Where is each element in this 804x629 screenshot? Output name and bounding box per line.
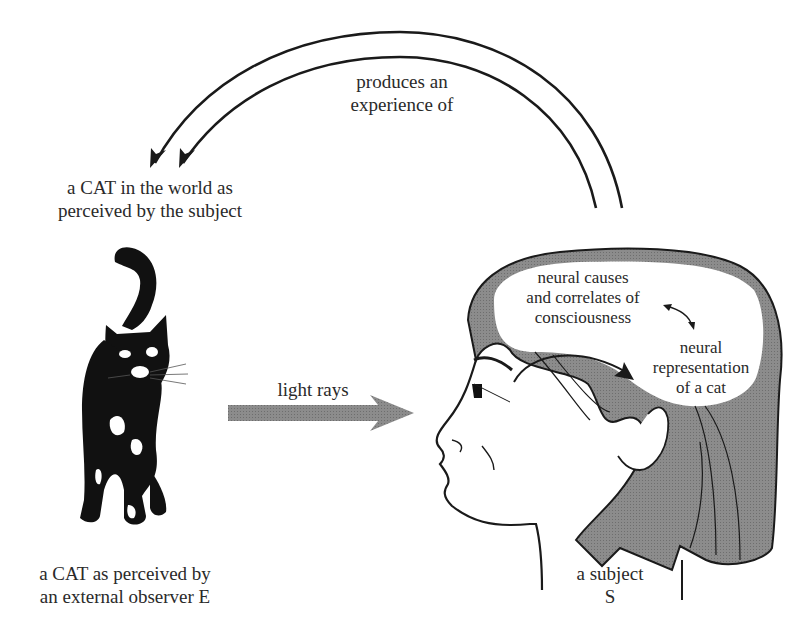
arrowhead-outer-icon	[150, 148, 166, 168]
produces-experience-label: produces an experience of	[317, 70, 487, 116]
neural-representation-label: neural representation of a cat	[636, 338, 766, 398]
face-outline	[437, 360, 542, 590]
cat-external-label: a CAT as perceived by an external observ…	[10, 562, 240, 608]
label-line: representation	[636, 358, 766, 378]
neural-correlates-label: neural causes and correlates of consciou…	[508, 268, 658, 328]
subject-label: a subject S	[560, 562, 660, 608]
face-details	[452, 440, 494, 470]
cat-illustration	[80, 247, 170, 524]
label-line: produces an	[317, 70, 487, 93]
label-line: and correlates of	[508, 288, 658, 308]
label-line: perceived by the subject	[20, 199, 280, 222]
label-line: a CAT as perceived by	[10, 562, 240, 585]
label-line: experience of	[317, 93, 487, 116]
cat-world-label: a CAT in the world as perceived by the s…	[20, 176, 280, 222]
arrowhead-inner-icon	[179, 148, 195, 168]
label-line: a CAT in the world as	[20, 176, 280, 199]
eye-icon	[472, 358, 512, 402]
label-line: S	[560, 585, 660, 608]
label-line: neural	[636, 338, 766, 358]
label-line: consciousness	[508, 308, 658, 328]
label-line: light rays	[258, 378, 368, 401]
label-line: a subject	[560, 562, 660, 585]
label-line: neural causes	[508, 268, 658, 288]
label-line: an external observer E	[10, 585, 240, 608]
light-rays-label: light rays	[258, 378, 368, 401]
label-line: of a cat	[636, 378, 766, 398]
